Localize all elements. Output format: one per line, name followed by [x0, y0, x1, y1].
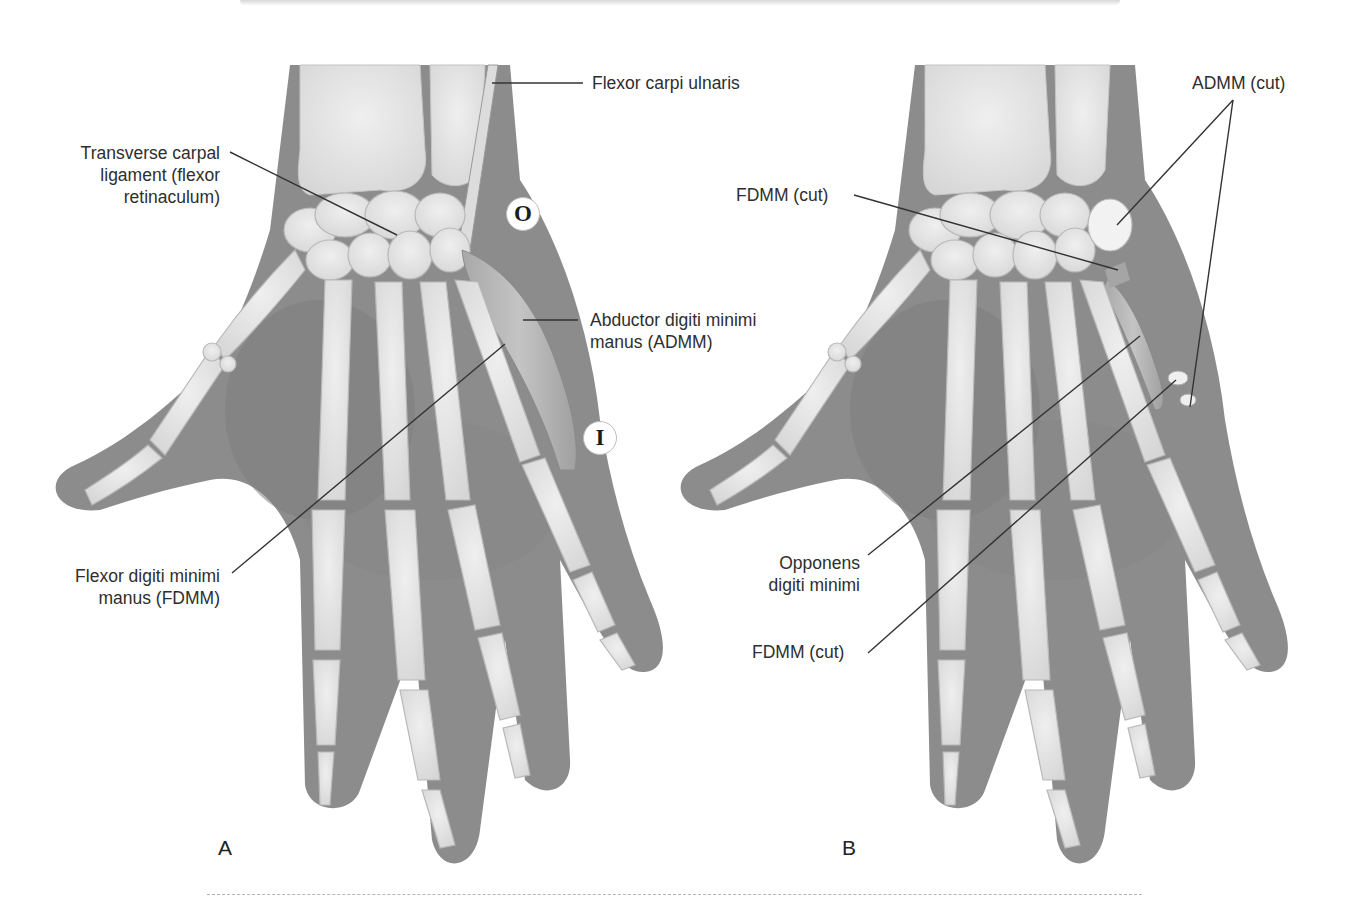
label-line: Flexor digiti minimi: [20, 565, 220, 587]
label-line: manus (ADMM): [590, 331, 756, 353]
label-line: manus (FDMM): [20, 587, 220, 609]
dashed-divider: [207, 894, 1142, 895]
insertion-marker: I: [583, 421, 617, 455]
label-fdmm-cut-top: FDMM (cut): [736, 184, 828, 206]
panel-letter-a: A: [218, 836, 232, 860]
label-line: retinaculum): [40, 186, 220, 208]
label-line: ligament (flexor: [40, 164, 220, 186]
hand-illustrations: [0, 0, 1361, 900]
label-transverse-carpal-ligament: Transverse carpal ligament (flexor retin…: [40, 142, 220, 208]
origin-marker: O: [506, 197, 540, 231]
label-line: Transverse carpal: [40, 142, 220, 164]
label-abductor-digiti-minimi: Abductor digiti minimi manus (ADMM): [590, 309, 756, 353]
label-flexor-digiti-minimi: Flexor digiti minimi manus (FDMM): [20, 565, 220, 609]
label-opponens-digiti-minimi: Opponens digiti minimi: [700, 552, 860, 596]
label-flexor-carpi-ulnaris: Flexor carpi ulnaris: [592, 72, 740, 94]
label-line: Opponens: [700, 552, 860, 574]
label-admm-cut: ADMM (cut): [1192, 72, 1285, 94]
panel-letter-b: B: [842, 836, 856, 860]
label-line: Abductor digiti minimi: [590, 309, 756, 331]
label-fdmm-cut-bottom: FDMM (cut): [752, 641, 844, 663]
label-line: digiti minimi: [700, 574, 860, 596]
